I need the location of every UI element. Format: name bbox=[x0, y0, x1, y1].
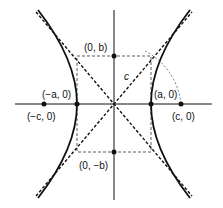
focus-left-point bbox=[42, 102, 47, 107]
vertex-left-label: (−a, 0) bbox=[42, 89, 71, 100]
c-label: c bbox=[124, 71, 129, 82]
co-vertex-top-point bbox=[112, 54, 117, 59]
co-vertex-bottom-label: (0, −b) bbox=[79, 160, 108, 171]
hyperbola-diagram: (0, b) (0, −b) (−a, 0) (a, 0) (−c, 0) (c… bbox=[0, 0, 223, 208]
vertex-right-label: (a, 0) bbox=[154, 89, 177, 100]
focus-right-label: (c, 0) bbox=[172, 111, 195, 122]
focus-left-label: (−c, 0) bbox=[27, 111, 56, 122]
focus-right-point bbox=[179, 102, 184, 107]
co-vertex-top-label: (0, b) bbox=[84, 42, 107, 53]
vertex-right-point bbox=[149, 102, 154, 107]
vertex-left-point bbox=[75, 102, 80, 107]
co-vertex-bottom-point bbox=[112, 150, 117, 155]
